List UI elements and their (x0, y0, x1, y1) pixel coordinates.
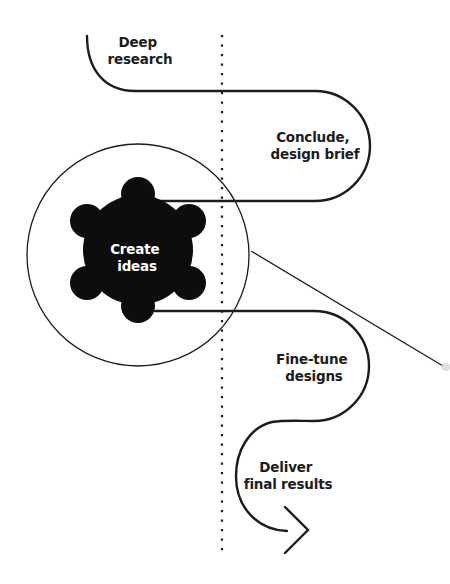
step-label-deliver: Deliver final results (244, 459, 333, 492)
step-label-create-ideas: Create ideas (110, 241, 164, 274)
magnifier-pointer-line (251, 251, 443, 366)
pointer-end-smudge (441, 363, 450, 371)
process-path-lower (155, 311, 369, 531)
step-label-fine-tune: Fine-tune designs (276, 351, 352, 384)
step-label-conclude: Conclude, design brief (270, 129, 359, 162)
chevron-right-icon (285, 507, 308, 553)
step-label-deep-research: Deep research (108, 34, 173, 67)
process-diagram: Deep research Conclude, design brief Cre… (0, 0, 450, 584)
